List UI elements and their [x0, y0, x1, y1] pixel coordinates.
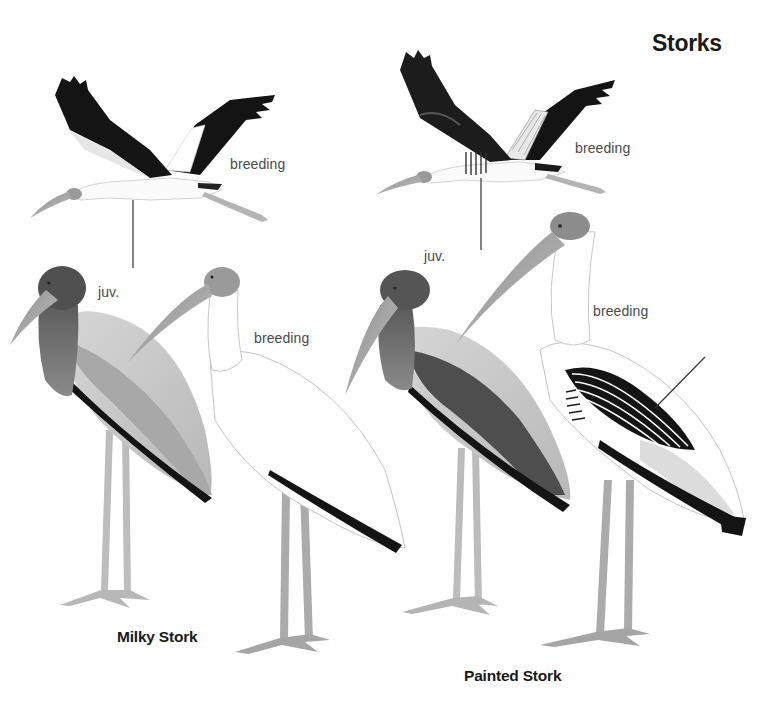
milky-stork-flight-illustration: [30, 76, 275, 268]
field-guide-plate: Storks breeding juv. breeding breeding j…: [0, 0, 777, 703]
stork-illustrations: [0, 0, 777, 703]
painted-flight-breeding-label: breeding: [575, 140, 630, 156]
milky-standing-breeding-label: breeding: [254, 330, 309, 346]
plate-title: Storks: [652, 30, 722, 57]
milky-stork-juvenile-illustration: [10, 266, 212, 608]
painted-stork-name: Painted Stork: [464, 667, 561, 685]
milky-stork-name: Milky Stork: [117, 628, 198, 646]
milky-flight-breeding-label: breeding: [230, 156, 285, 172]
milky-juvenile-label: juv.: [98, 284, 119, 300]
painted-juvenile-label: juv.: [424, 248, 445, 264]
painted-stork-juvenile-illustration: [345, 270, 570, 615]
painted-standing-breeding-label: breeding: [593, 303, 648, 319]
